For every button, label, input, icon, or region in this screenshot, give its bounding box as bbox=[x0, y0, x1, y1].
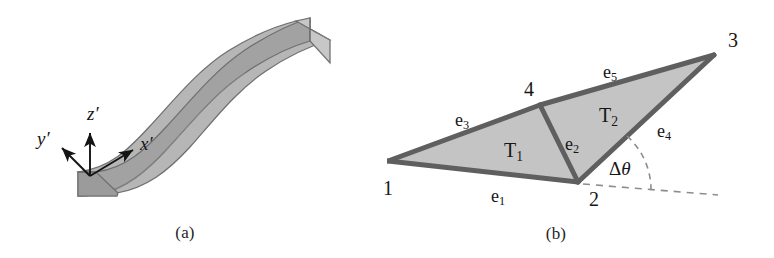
panel-a-caption: (a) bbox=[125, 223, 245, 243]
edge-label-e3: e3 bbox=[455, 111, 469, 132]
axis-y-prime-arrow bbox=[62, 148, 90, 176]
node-label-2: 2 bbox=[589, 189, 599, 209]
edge-label-e1: e1 bbox=[491, 187, 505, 208]
node-label-4: 4 bbox=[524, 79, 534, 99]
beam-front-face bbox=[78, 18, 310, 196]
panel-a-curved-beam: z′ y′ x′ (a) bbox=[0, 0, 387, 258]
edge-label-e5: e5 bbox=[603, 63, 617, 84]
edge-label-e4: e4 bbox=[657, 122, 671, 143]
edge-label-e2: e2 bbox=[565, 135, 579, 156]
delta-theta-arc bbox=[627, 136, 651, 191]
node-label-1: 1 bbox=[383, 178, 393, 198]
axis-label-y-prime: y′ bbox=[37, 129, 50, 148]
triangle-pair-drawing bbox=[387, 0, 774, 258]
panel-b-caption: (b) bbox=[496, 224, 616, 244]
triangle-label-T2: T2 bbox=[599, 105, 618, 128]
triangle-label-T1: T1 bbox=[504, 140, 523, 163]
curved-beam-drawing bbox=[0, 0, 387, 258]
axis-label-z-prime: z′ bbox=[87, 104, 99, 123]
delta-theta-label: Δθ bbox=[609, 159, 631, 178]
panel-b-triangle-pair: 1 2 3 4 e1 e2 e3 e4 e5 T1 T2 Δθ (b) bbox=[387, 0, 774, 258]
node-label-3: 3 bbox=[728, 30, 738, 50]
axis-label-x-prime: x′ bbox=[140, 134, 153, 153]
figure-root: z′ y′ x′ (a) bbox=[0, 0, 774, 258]
